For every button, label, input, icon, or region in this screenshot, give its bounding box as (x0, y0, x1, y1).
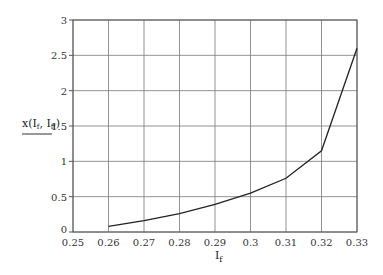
grid-lines (69, 20, 357, 232)
x-tick-label: 0.32 (310, 237, 332, 248)
axis-ticks: 0.250.260.270.280.290.30.310.320.3300.51… (51, 15, 368, 248)
y-tick-label: 1 (61, 156, 67, 167)
x-tick-label: 0.31 (275, 237, 297, 248)
y-axis-label: x(If, Iff) (22, 117, 60, 131)
y-tick-label: 2.5 (51, 50, 67, 61)
line-chart: 0.250.260.270.280.290.30.310.320.3300.51… (0, 0, 383, 275)
y-tick-label: 0 (61, 224, 67, 235)
x-tick-label: 0.26 (97, 237, 119, 248)
x-tick-label: 0.29 (204, 237, 226, 248)
x-tick-label: 0.3 (243, 237, 259, 248)
x-tick-label: 0.25 (62, 237, 84, 248)
y-tick-label: 2 (61, 86, 67, 97)
x-tick-label: 0.28 (168, 237, 190, 248)
y-tick-label: 3 (61, 15, 67, 26)
y-tick-label: 0.5 (51, 192, 67, 203)
x-axis-label: If (215, 249, 223, 264)
x-tick-label: 0.27 (133, 237, 155, 248)
x-tick-label: 0.33 (346, 237, 368, 248)
data-line (109, 48, 358, 226)
